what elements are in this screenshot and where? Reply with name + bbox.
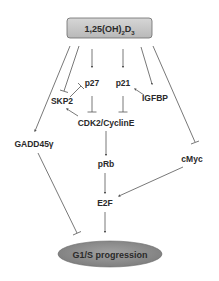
node-vitamin-d: 1,25(OH)2D3 — [67, 18, 152, 38]
node-cmyc: cMyc — [181, 154, 203, 164]
edge-gadd45-g1s — [38, 153, 77, 233]
node-gadd45g: GADD45γ — [14, 139, 53, 149]
node-g1s-progression: G1/S progression — [58, 241, 162, 267]
edge-cmyc-e2f — [119, 167, 183, 196]
node-prb: pRb — [98, 159, 115, 169]
node-e2f: E2F — [97, 198, 113, 208]
pathway-diagram: 1,25(OH)2D3 — [0, 0, 219, 281]
edges — [35, 46, 199, 235]
edge-vitd-skp2 — [64, 46, 79, 91]
inhibit-bar-g1s — [73, 232, 81, 236]
node-cdk2-cycline: CDK2/CyclinE — [78, 118, 135, 128]
edge-vitd-igfbp — [141, 47, 152, 84]
node-p27: p27 — [85, 78, 100, 88]
node-p21: p21 — [116, 78, 131, 88]
edge-cdk2-skp2 — [67, 109, 78, 116]
node-skp2: SKP2 — [51, 96, 73, 106]
node-igfbp: IGFBP — [142, 93, 168, 103]
g1s-label: G1/S progression — [72, 250, 147, 260]
